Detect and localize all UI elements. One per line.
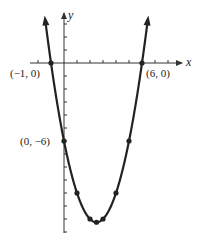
point-label-0-neg6: (0, −6) xyxy=(20,135,50,148)
data-point xyxy=(74,190,79,195)
point-label-6-0: (6, 0) xyxy=(146,67,170,80)
curve-arrow-right-icon xyxy=(144,15,151,25)
y-axis-label: y xyxy=(67,8,74,22)
data-point xyxy=(87,216,92,221)
data-point xyxy=(113,190,118,195)
data-point xyxy=(126,138,131,143)
parabola-curve xyxy=(45,19,148,222)
data-point xyxy=(61,138,66,143)
data-point xyxy=(94,220,99,225)
x-axis-label: x xyxy=(185,55,192,69)
data-point xyxy=(100,216,105,221)
data-point xyxy=(48,60,53,65)
parabola-graph: x y (−1, 0) (6, 0) (0, −6) xyxy=(0,0,201,240)
curve-arrow-left-icon xyxy=(42,15,49,25)
data-points xyxy=(48,60,144,224)
data-point xyxy=(139,60,144,65)
point-label-neg1-0: (−1, 0) xyxy=(10,67,40,80)
y-axis xyxy=(64,13,67,233)
